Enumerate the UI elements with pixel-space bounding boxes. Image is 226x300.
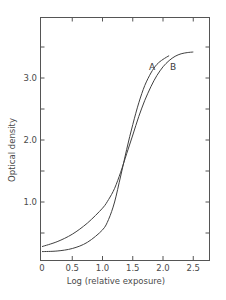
x-tick-label: 2.0 [156,263,170,273]
axis-tick-labels: 00.51.01.52.02.51.02.03.0 [23,73,200,273]
x-tick-label: 2.5 [186,263,200,273]
y-tick-label: 2.0 [23,135,37,145]
x-tick-label: 0 [39,263,44,273]
curve-b [42,52,193,247]
curve-a-label: A [149,62,156,72]
x-tick-label: 1.0 [96,263,110,273]
axis-ticks [41,18,210,261]
x-axis-label: Log (relative exposure) [67,276,165,286]
plot-frame [41,18,210,261]
figure-caption-fragment [2,291,224,300]
x-tick-label: 1.5 [126,263,140,273]
characteristic-curve-chart: 00.51.01.52.02.51.02.03.0 Log (relative … [0,0,226,300]
x-tick-label: 0.5 [65,263,79,273]
curve-b-label: B [170,62,176,72]
y-tick-label: 3.0 [23,73,37,83]
y-axis-label: Optical density [7,118,17,182]
y-tick-label: 1.0 [23,197,37,207]
curve-a [42,56,169,252]
